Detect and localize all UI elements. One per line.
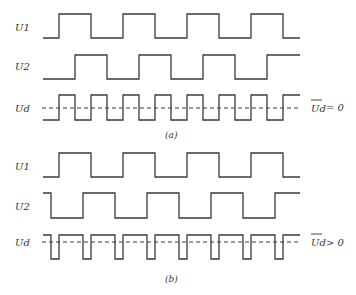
label-u2-b: U2 <box>15 201 30 212</box>
mean-relation-a: = 0 <box>326 102 345 113</box>
label-u1-a: U1 <box>15 22 30 33</box>
label-u2-a: U2 <box>15 61 30 72</box>
waveform-u1-a <box>43 14 300 38</box>
mean-label-b: Ud > 0 <box>311 234 345 248</box>
waveform-u2-b <box>43 193 300 218</box>
mean-symbol-a: Ud <box>311 103 326 114</box>
label-ud-b: Ud <box>15 237 30 248</box>
panel-a: U1 U2 Ud Ud = 0 (a) <box>15 14 345 140</box>
panel-b: U1 U2 Ud Ud > 0 (b) <box>15 153 345 284</box>
waveform-diagram: U1 U2 Ud Ud = 0 (a) U1 U2 Ud Ud > 0 (b) <box>0 0 356 295</box>
mean-relation-b: > 0 <box>326 237 345 248</box>
mean-symbol-b: Ud <box>311 237 326 248</box>
label-ud-a: Ud <box>15 103 30 114</box>
caption-a: (a) <box>165 130 178 140</box>
waveform-ud-b <box>43 235 300 259</box>
waveform-u2-a <box>43 55 300 79</box>
caption-b: (b) <box>165 274 178 284</box>
label-u1-b: U1 <box>15 161 30 172</box>
waveform-u1-b <box>43 153 300 177</box>
mean-label-a: Ud = 0 <box>311 100 345 114</box>
